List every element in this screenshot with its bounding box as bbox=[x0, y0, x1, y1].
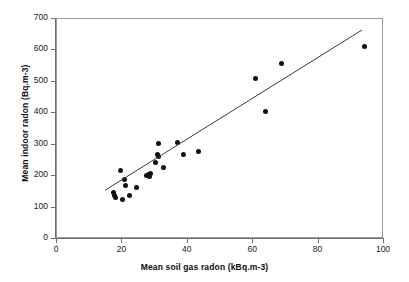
y-tick-label: 100 bbox=[14, 202, 48, 211]
y-tick-label: 300 bbox=[14, 139, 48, 148]
data-point bbox=[156, 154, 161, 159]
y-tick-label: 200 bbox=[14, 170, 48, 179]
data-point bbox=[156, 141, 161, 146]
x-axis-line bbox=[55, 238, 384, 239]
y-tick-label: 0 bbox=[14, 233, 48, 242]
x-tick-mark bbox=[252, 239, 253, 243]
x-tick-mark bbox=[383, 239, 384, 243]
data-point bbox=[253, 76, 258, 81]
x-axis-title: Mean soil gas radon (kBq.m-3) bbox=[0, 262, 409, 272]
data-point bbox=[181, 152, 186, 157]
plot-area bbox=[56, 18, 383, 238]
data-point bbox=[118, 168, 123, 173]
scatter-plot-figure: Mean indoor radon (Bq.m-3) 0100200300400… bbox=[0, 0, 409, 282]
x-tick-label: 0 bbox=[41, 245, 71, 254]
x-tick-label: 40 bbox=[172, 245, 202, 254]
x-tick-label: 60 bbox=[237, 245, 267, 254]
data-point bbox=[134, 185, 139, 190]
data-point bbox=[196, 149, 201, 154]
data-point bbox=[148, 171, 153, 176]
y-tick-label: 400 bbox=[14, 107, 48, 116]
x-tick-mark bbox=[187, 239, 188, 243]
y-tick-label: 600 bbox=[14, 44, 48, 53]
x-tick-label: 100 bbox=[368, 245, 398, 254]
data-point bbox=[120, 197, 125, 202]
data-point bbox=[175, 140, 180, 145]
x-tick-mark bbox=[318, 239, 319, 243]
data-point bbox=[263, 109, 268, 114]
data-points-layer bbox=[57, 19, 382, 237]
y-axis-line bbox=[55, 18, 56, 239]
data-point bbox=[279, 61, 284, 66]
data-point bbox=[161, 165, 166, 170]
data-point bbox=[113, 195, 118, 200]
data-point bbox=[153, 160, 158, 165]
x-tick-mark bbox=[56, 239, 57, 243]
x-tick-label: 80 bbox=[303, 245, 333, 254]
data-point bbox=[123, 183, 128, 188]
x-tick-mark bbox=[121, 239, 122, 243]
y-tick-label: 500 bbox=[14, 76, 48, 85]
data-point bbox=[362, 44, 367, 49]
x-tick-label: 20 bbox=[106, 245, 136, 254]
y-tick-label: 700 bbox=[14, 13, 48, 22]
data-point bbox=[122, 177, 127, 182]
data-point bbox=[127, 193, 132, 198]
